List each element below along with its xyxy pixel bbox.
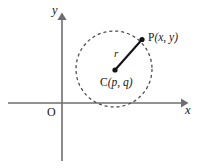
x-axis-group: [8, 98, 189, 107]
point-p-dot: [139, 37, 144, 42]
origin-label: O: [47, 106, 56, 118]
y-axis-label: y: [52, 4, 58, 17]
x-axis-label: x: [185, 104, 191, 117]
point-p-label: P(x, y): [148, 32, 178, 44]
circle-diagram-figure: y x O P(x, y) C(p, q) r: [0, 0, 199, 168]
radius-label: r: [114, 48, 118, 59]
radius-segment: [115, 40, 142, 71]
centre-c-letter: C: [100, 76, 108, 88]
y-axis-arrowhead: [57, 13, 66, 21]
y-axis-group: [57, 13, 66, 162]
point-p-coords: (x, y): [154, 31, 178, 43]
centre-point-dot: [112, 67, 117, 72]
centre-c-coords: (p, q): [108, 76, 133, 88]
centre-c-label: C(p, q): [100, 77, 133, 89]
